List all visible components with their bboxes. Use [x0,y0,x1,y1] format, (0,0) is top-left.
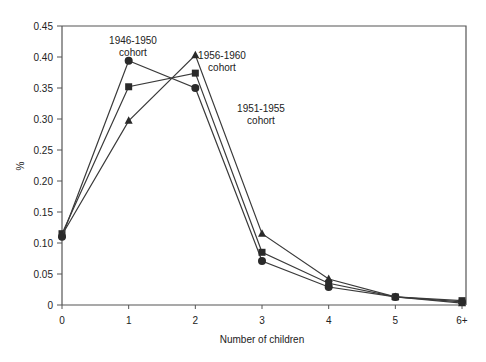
line-chart: 00.050.100.150.200.250.300.350.400.45 01… [0,0,486,362]
series-triangle [58,51,466,307]
annotation-cohort: cohort [119,47,147,58]
x-tick-label: 3 [259,315,265,326]
square-marker [125,83,132,90]
x-tick-label: 0 [59,315,65,326]
circle-marker [258,257,266,265]
circle-marker [191,84,199,92]
square-marker [259,249,266,256]
x-tick-label: 2 [193,315,199,326]
y-tick-label: 0.10 [34,238,54,249]
series-line [62,61,462,302]
y-tick-label: 0.05 [34,269,54,280]
y-axis: 00.050.100.150.200.250.300.350.400.45 [34,21,62,311]
y-tick-label: 0 [47,300,53,311]
annotations: 1946-1950cohort1956-1960cohort1951-1955c… [109,35,285,126]
annotation-1946-1950: 1946-1950cohort [109,35,157,58]
square-marker [192,70,199,77]
y-axis-title: % [15,161,26,170]
annotation-cohort: cohort [247,115,275,126]
y-tick-label: 0.15 [34,207,54,218]
annotation-cohort: cohort [208,62,236,73]
y-tick-label: 0.35 [34,83,54,94]
annotation-years: 1956-1960 [198,50,246,61]
y-tick-label: 0.30 [34,114,54,125]
x-tick-label: 1 [126,315,132,326]
annotation-years: 1951-1955 [237,103,285,114]
series-circle [58,57,466,306]
annotation-1956-1960: 1956-1960cohort [198,50,246,73]
y-tick-label: 0.40 [34,52,54,63]
y-tick-label: 0.45 [34,21,54,32]
x-tick-label: 6+ [456,315,468,326]
x-axis: 0123456+ [59,305,468,326]
series-group [58,51,466,307]
triangle-marker [258,229,266,237]
triangle-marker [325,274,333,282]
y-tick-label: 0.25 [34,145,54,156]
annotation-years: 1946-1950 [109,35,157,46]
x-tick-label: 5 [393,315,399,326]
series-line [62,55,462,303]
annotation-1951-1955: 1951-1955cohort [237,103,285,126]
x-tick-label: 4 [326,315,332,326]
x-axis-title: Number of children [220,334,304,345]
y-tick-label: 0.20 [34,176,54,187]
